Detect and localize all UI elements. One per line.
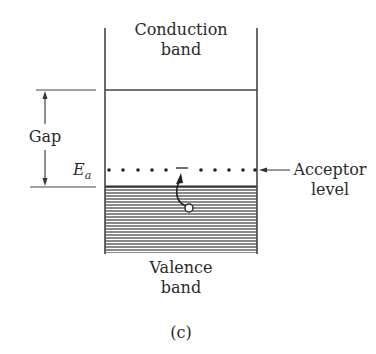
conduction-band-label: Conduction band <box>120 20 242 60</box>
acceptor-pointer-arrow-icon <box>259 168 290 173</box>
figure-caption: (c) <box>156 323 206 343</box>
energy-subscript: a <box>85 169 92 182</box>
conduction-band-label-line1: Conduction <box>120 20 242 40</box>
acceptor-level-label: Acceptor level <box>288 160 372 200</box>
valence-band-label-line1: Valence <box>120 258 242 278</box>
valence-band-label-line2: band <box>120 278 242 298</box>
valence-band-region <box>105 186 257 253</box>
acceptor-level-dots <box>107 168 257 172</box>
gap-arrow-down-icon <box>43 150 48 186</box>
valence-band-label: Valence band <box>120 258 242 298</box>
energy-symbol: E <box>73 160 85 179</box>
acceptor-label-line2: level <box>288 180 372 200</box>
conduction-band-label-line2: band <box>120 40 242 60</box>
gap-arrow-up-icon <box>43 91 48 124</box>
hole-icon <box>185 204 193 212</box>
gap-label: Gap <box>22 127 68 147</box>
energy-label: Ea <box>73 160 103 186</box>
acceptor-label-line1: Acceptor <box>288 160 372 180</box>
